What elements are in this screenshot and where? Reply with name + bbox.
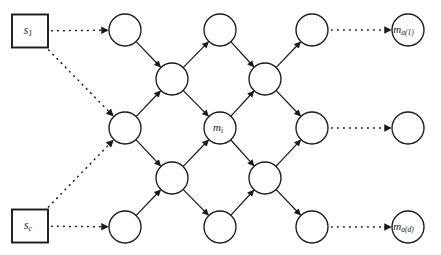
dotted-edge-s1-to-n-c1-r1: [51, 30, 108, 31]
graph-node-n-c3-r5[interactable]: [296, 211, 328, 243]
lattice-diagram: s1sc ma(1)mima(d): [0, 0, 441, 255]
edge-n-c0-r3-to-n-c1-r4: [136, 140, 161, 166]
graph-node-n-c1-r5[interactable]: [109, 211, 141, 243]
edge-n-c0-r3-to-n-c1-r2: [136, 91, 160, 116]
graph-node-n-c3-r3[interactable]: [296, 112, 328, 144]
dotted-edge-sc-to-n-c0-r3: [48, 140, 113, 207]
edge-n-c1-r4-to-n-c2-r3: [183, 140, 208, 166]
source-node-s1[interactable]: s1: [12, 15, 48, 48]
node-circle-shape: [204, 14, 236, 46]
node-circle-shape: [249, 63, 281, 95]
graph-node-n-c2-r3[interactable]: mi: [204, 112, 236, 144]
node-layer: ma(1)mima(d): [109, 14, 424, 243]
edge-n-c2-r3-to-n-c2-r4: [231, 140, 254, 166]
edge-n-c1-r4-to-n-c2-r5: [183, 190, 208, 216]
edge-n-c2-r4-to-n-c3-r5: [276, 190, 300, 215]
node-circle-shape: [109, 14, 141, 46]
edge-n-c2-r2-to-n-c3-r3: [276, 91, 300, 116]
edge-n-c2-r4-to-n-c3-r3: [276, 140, 301, 166]
edge-n-c1-r1-to-n-c1-r2: [136, 42, 160, 67]
edge-n-c1-r2-to-n-c2-r3: [183, 91, 208, 117]
graph-node-n-out-top[interactable]: ma(1): [392, 14, 424, 46]
edge-n-c2-r1-to-n-c2-r2: [231, 42, 254, 67]
node-circle-shape: [156, 63, 188, 95]
edge-n-c1-r2-to-n-c2-r1: [183, 42, 208, 68]
node-circle-shape: [296, 211, 328, 243]
graph-node-n-c1-r2[interactable]: [156, 63, 188, 95]
dotted-edge-sc-to-n-c1-r5: [51, 226, 108, 227]
graph-node-n-out-bot[interactable]: ma(d): [392, 211, 424, 243]
node-circle-shape: [296, 112, 328, 144]
graph-node-n-c2-r1[interactable]: [204, 14, 236, 46]
dotted-edge-s1-to-n-c0-r3: [49, 50, 113, 116]
edge-n-c2-r3-to-n-c2-r2: [231, 91, 254, 116]
node-circle-shape: [296, 14, 328, 46]
source-node-sc[interactable]: sc: [12, 210, 48, 243]
node-circle-shape: [392, 112, 424, 144]
edge-n-c2-r5-to-n-c2-r4: [231, 190, 254, 215]
diagram-canvas: s1sc ma(1)mima(d): [0, 0, 441, 255]
node-circle-shape: [249, 162, 281, 194]
graph-node-n-c2-r5[interactable]: [204, 211, 236, 243]
edge-n-c1-r5-to-n-c1-r4: [136, 190, 160, 215]
graph-node-n-c3-r1[interactable]: [296, 14, 328, 46]
graph-node-n-c2-r4[interactable]: [249, 162, 281, 194]
source-box-layer: s1sc: [12, 15, 48, 243]
graph-node-n-c2-r2[interactable]: [249, 63, 281, 95]
edge-n-c2-r2-to-n-c3-r1: [276, 42, 300, 67]
node-circle-shape: [156, 162, 188, 194]
node-circle-shape: [204, 211, 236, 243]
graph-node-n-c1-r4[interactable]: [156, 162, 188, 194]
node-circle-shape: [109, 211, 141, 243]
graph-node-n-c1-r1[interactable]: [109, 14, 141, 46]
graph-node-n-out-mid[interactable]: [392, 112, 424, 144]
graph-node-n-c0-r3[interactable]: [109, 112, 141, 144]
node-circle-shape: [109, 112, 141, 144]
